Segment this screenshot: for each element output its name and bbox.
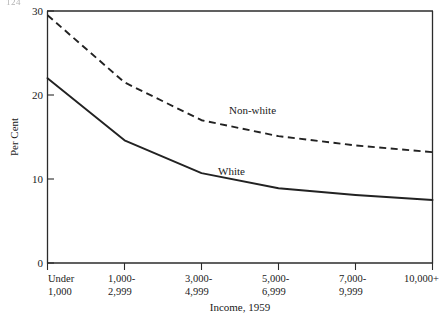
series-labels: Non-white White xyxy=(218,104,276,177)
x-tick-labels: Under 1,000 1,000- 2,999 3,000- 4,999 5,… xyxy=(48,273,439,297)
chart-axes xyxy=(47,11,433,264)
y-tick-label-20: 20 xyxy=(32,89,44,101)
chart-canvas: 0 10 20 30 Per Cent Under 1,000 1,000- 2… xyxy=(0,0,446,316)
x-label-2-line1: 3,000- xyxy=(185,273,213,284)
x-label-2-line2: 4,999 xyxy=(185,286,209,297)
x-label-1-line2: 2,999 xyxy=(108,286,132,297)
series-line-white xyxy=(48,78,433,200)
y-axis-title: Per Cent xyxy=(8,118,20,156)
x-label-4-line1: 7,000- xyxy=(339,273,367,284)
x-label-4-line2: 9,999 xyxy=(339,286,363,297)
y-tick-label-30: 30 xyxy=(32,5,44,17)
series-line-non-white xyxy=(48,15,433,152)
y-tick-labels: 0 10 20 30 xyxy=(32,5,44,269)
y-tick-label-10: 10 xyxy=(32,173,44,185)
x-label-0-line1: Under xyxy=(48,273,75,284)
x-label-5-line1: 10,000+ xyxy=(404,273,439,284)
x-label-1-line1: 1,000- xyxy=(108,273,136,284)
y-tick-label-0: 0 xyxy=(38,257,44,269)
x-axis-title: Income, 1959 xyxy=(210,301,271,313)
x-label-0-line2: 1,000 xyxy=(48,286,72,297)
figure-chart: 124 0 10 20 30 Per Cent xyxy=(0,0,446,316)
x-label-3-line1: 5,000- xyxy=(262,273,290,284)
series-label-non-white: Non-white xyxy=(229,104,276,116)
series-label-white: White xyxy=(218,165,245,177)
x-tick-marks xyxy=(48,263,433,270)
x-label-3-line2: 6,999 xyxy=(262,286,286,297)
